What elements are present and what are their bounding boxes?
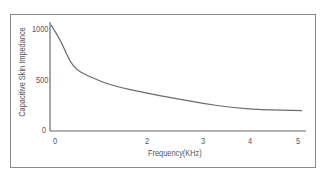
x-tick-4: 4 [248,136,252,146]
x-tick-0: 0 [53,136,57,146]
y-tick-500: 500 [36,75,48,85]
impedance-curve [51,25,302,111]
x-tick-2: 2 [145,136,149,146]
x-tick-3: 3 [201,136,205,146]
x-axis-label: Frequency(KHz) [148,148,202,158]
y-tick-1000: 1000 [32,24,48,34]
chart: 1000 500 0 Capacitive Skin Impedance 0 2… [0,0,328,181]
y-tick-0: 0 [42,125,46,135]
x-tick-5: 5 [296,136,300,146]
y-axis-label: Capacitive Skin Impedance [17,27,27,116]
